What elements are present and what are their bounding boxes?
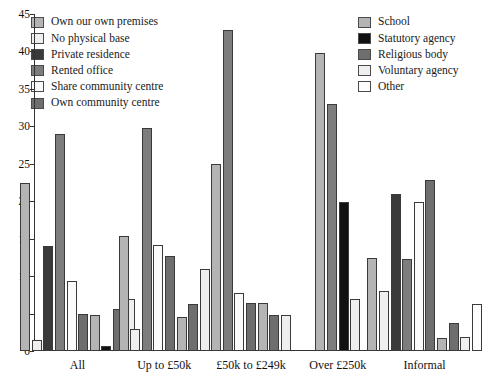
bar bbox=[339, 202, 349, 351]
bar bbox=[246, 303, 256, 351]
bar bbox=[269, 315, 279, 351]
y-tick-label: 45 bbox=[19, 8, 31, 20]
bar bbox=[414, 202, 424, 351]
y-tick-mark bbox=[30, 239, 34, 240]
y-tick-mark bbox=[30, 351, 34, 352]
y-tick-mark bbox=[30, 51, 34, 52]
y-tick-mark bbox=[30, 164, 34, 165]
bar bbox=[437, 338, 447, 351]
x-group-label: Informal bbox=[404, 358, 446, 373]
bar bbox=[78, 314, 88, 351]
x-group-label: All bbox=[70, 358, 85, 373]
bar bbox=[379, 291, 389, 351]
chart-page: Own our own premisesNo physical basePriv… bbox=[0, 0, 485, 386]
bar bbox=[402, 259, 412, 351]
y-tick-mark bbox=[30, 276, 34, 277]
bar bbox=[472, 304, 482, 351]
bar bbox=[391, 194, 401, 351]
plot-area: 051015202530354045AllUp to £50k£50k to £… bbox=[34, 14, 468, 351]
bar bbox=[165, 256, 175, 351]
bar bbox=[153, 245, 163, 351]
y-tick-mark bbox=[30, 314, 34, 315]
bar bbox=[449, 323, 459, 351]
y-tick-label: 35 bbox=[19, 83, 31, 95]
y-tick-mark bbox=[30, 14, 34, 15]
bar bbox=[425, 180, 435, 351]
bar bbox=[234, 293, 244, 351]
bar bbox=[367, 258, 377, 351]
x-group-label: Up to £50k bbox=[137, 358, 191, 373]
bar bbox=[20, 183, 30, 351]
bar bbox=[90, 315, 100, 351]
bar bbox=[55, 134, 65, 351]
y-tick-label: 40 bbox=[19, 45, 31, 57]
bar bbox=[327, 104, 337, 351]
y-tick-mark bbox=[30, 201, 34, 202]
bar bbox=[460, 337, 470, 351]
bar bbox=[32, 340, 42, 351]
bar bbox=[101, 346, 111, 351]
bar bbox=[200, 269, 210, 351]
bar bbox=[188, 304, 198, 351]
bar bbox=[67, 281, 77, 351]
y-tick-mark bbox=[30, 89, 34, 90]
bar bbox=[258, 303, 268, 351]
bar bbox=[119, 236, 129, 351]
axes: 051015202530354045AllUp to £50k£50k to £… bbox=[34, 14, 468, 351]
bar bbox=[211, 164, 221, 351]
y-tick-label: 25 bbox=[19, 158, 31, 170]
bar bbox=[223, 30, 233, 351]
bar bbox=[315, 53, 325, 351]
x-group-label: £50k to £249k bbox=[216, 358, 285, 373]
y-tick-mark bbox=[30, 126, 34, 127]
x-group-label: Over £250k bbox=[309, 358, 366, 373]
bar bbox=[142, 128, 152, 351]
bar bbox=[43, 246, 53, 351]
y-axis-line bbox=[34, 14, 35, 351]
bar bbox=[130, 329, 140, 351]
bar bbox=[281, 315, 291, 351]
bar bbox=[177, 317, 187, 351]
bar bbox=[350, 299, 360, 351]
y-tick-label: 30 bbox=[19, 120, 31, 132]
